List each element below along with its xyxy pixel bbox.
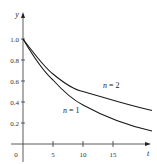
x-tick-label-15: 15 — [110, 151, 118, 159]
curve-n2 — [23, 39, 152, 111]
curve-label-n1: n = 1 — [63, 106, 80, 115]
y-tick-label-0.2: 0.2 — [10, 120, 19, 128]
curve-n1 — [23, 39, 152, 131]
x-axis-arrow-icon — [145, 142, 151, 146]
curve-label-n2: n = 2 — [103, 81, 120, 90]
y-axis-label: y — [14, 10, 19, 19]
axes — [11, 12, 151, 162]
chart: 1.0 0.8 0.6 0.4 0.2 0 5 10 15 y t n = 2 … — [0, 0, 157, 164]
y-tick-label-1.0: 1.0 — [10, 36, 19, 44]
y-axis-arrow-icon — [21, 12, 25, 18]
y-tick-label-0.8: 0.8 — [10, 57, 19, 65]
curve-label-n2-eq: = 2 — [107, 81, 120, 90]
y-tick-label-0.4: 0.4 — [10, 99, 19, 107]
curve-label-n1-eq: = 1 — [67, 106, 80, 115]
x-tick-label-5: 5 — [51, 151, 55, 159]
origin-label: 0 — [14, 151, 18, 159]
y-tick-label-0.6: 0.6 — [10, 78, 19, 86]
x-tick-label-10: 10 — [80, 151, 88, 159]
x-axis-label: t — [147, 149, 150, 158]
